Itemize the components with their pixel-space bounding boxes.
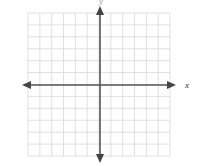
- x-axis-left-arrowhead: [22, 81, 31, 89]
- y-axis-label: y: [98, 0, 103, 6]
- x-axis-right-arrowhead: [167, 81, 176, 89]
- figure-canvas: x y: [0, 0, 208, 166]
- coordinate-plane: x y: [0, 0, 208, 166]
- y-axis-bottom-arrowhead: [96, 154, 104, 163]
- y-axis-top-arrowhead: [96, 6, 104, 15]
- x-axis-label: x: [184, 80, 189, 90]
